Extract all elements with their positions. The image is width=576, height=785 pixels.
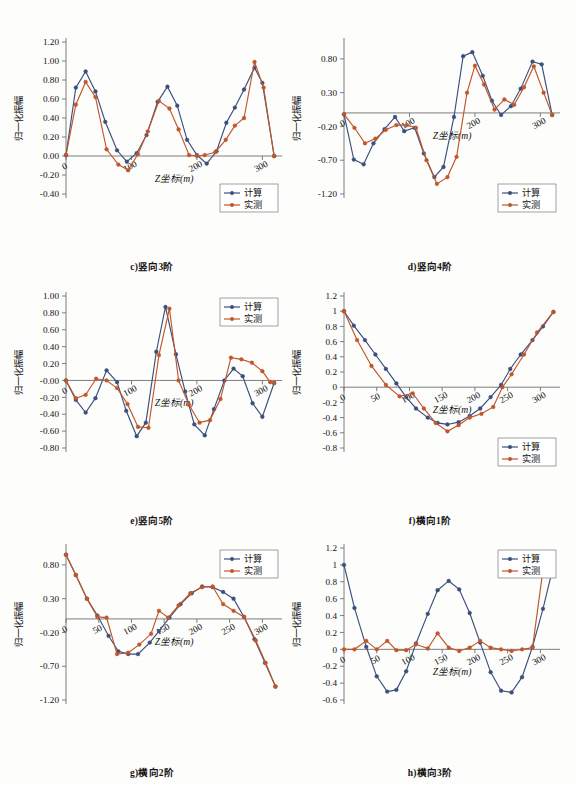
x-tick-label: 150 xyxy=(432,652,449,667)
x-axis-title: Z坐标(m) xyxy=(155,173,194,185)
legend-label: 实测 xyxy=(522,565,540,576)
data-point xyxy=(363,141,367,145)
data-point xyxy=(353,606,357,610)
y-tick-label: -0.4 xyxy=(322,678,337,688)
data-point xyxy=(192,422,196,426)
y-tick-label: 0.20 xyxy=(43,359,59,369)
data-point xyxy=(74,396,78,400)
legend-label: 计算 xyxy=(244,553,262,564)
data-point xyxy=(550,113,554,117)
data-point xyxy=(175,104,179,108)
x-axis-title: Z坐标(m) xyxy=(155,636,194,648)
data-point xyxy=(436,588,440,592)
x-tick-label: 300 xyxy=(253,383,270,398)
data-point xyxy=(446,429,450,433)
legend-label: 计算 xyxy=(522,187,540,198)
data-point xyxy=(414,126,418,130)
legend-swatch-marker xyxy=(508,457,512,461)
x-tick-label: 200 xyxy=(187,383,204,398)
chart-svg-h: -0.6-0.4-0.200.20.40.60.811.205010015020… xyxy=(286,530,574,752)
data-point xyxy=(411,391,415,395)
data-point xyxy=(470,50,474,54)
plot-area-d: -1.20-0.70-0.200.300.800100200300Z坐标(m)归… xyxy=(286,24,574,246)
x-tick-label: 300 xyxy=(531,115,548,130)
data-point xyxy=(342,112,346,116)
legend-swatch-marker xyxy=(230,317,234,321)
y-tick-label: 0.30 xyxy=(43,594,59,604)
data-point xyxy=(434,421,438,425)
data-point xyxy=(115,148,119,152)
data-point xyxy=(436,631,440,635)
x-axis-title: Z坐标(m) xyxy=(433,404,472,416)
data-point xyxy=(126,168,130,172)
y-tick-label: -0.20 xyxy=(318,122,338,132)
data-point xyxy=(404,395,408,399)
y-tick-label: 0.80 xyxy=(43,560,59,570)
series-line-计算 xyxy=(66,68,274,164)
data-point xyxy=(342,563,346,567)
legend-label: 实测 xyxy=(244,565,262,576)
data-point xyxy=(229,356,233,360)
data-point xyxy=(84,411,88,415)
y-tick-label: 0.6 xyxy=(326,337,338,347)
data-point xyxy=(478,639,482,643)
data-point xyxy=(364,645,368,649)
legend-swatch-marker xyxy=(230,569,234,573)
y-tick-label: -1.20 xyxy=(318,189,338,199)
legend-swatch-marker xyxy=(508,557,512,561)
y-tick-label: 0 xyxy=(332,382,337,392)
data-point xyxy=(74,103,78,107)
data-point xyxy=(115,386,119,390)
legend: 计算实测 xyxy=(220,550,278,578)
legend-swatch-marker xyxy=(508,191,512,195)
x-axis-title: Z坐标(m) xyxy=(433,130,472,142)
legend: 计算实测 xyxy=(220,298,278,326)
data-point xyxy=(135,434,139,438)
y-tick-label: 0.4 xyxy=(326,611,338,621)
data-point xyxy=(241,374,245,378)
y-tick-label: 0.80 xyxy=(43,308,59,318)
data-point xyxy=(532,64,536,68)
data-point xyxy=(166,616,170,620)
data-point xyxy=(446,423,450,427)
chart-caption-f: f)横向1阶 xyxy=(286,513,574,527)
data-point xyxy=(499,647,503,651)
data-point xyxy=(541,607,545,611)
data-point xyxy=(154,350,158,354)
data-point xyxy=(465,91,469,95)
data-point xyxy=(457,587,461,591)
data-point xyxy=(435,182,439,186)
data-point xyxy=(510,372,514,376)
data-point xyxy=(352,158,356,162)
legend-label: 实测 xyxy=(522,453,540,464)
data-point xyxy=(535,331,539,335)
legend-swatch-marker xyxy=(508,569,512,573)
plot-area-f: -0.8-0.6-0.4-0.200.20.40.60.811.20501001… xyxy=(286,278,574,500)
data-point xyxy=(126,651,130,655)
plot-area-c: -0.40-0.200.000.200.400.600.801.001.2001… xyxy=(8,24,296,246)
data-point xyxy=(105,616,109,620)
chart-svg-g: -1.20-0.70-0.200.300.8005010015020025030… xyxy=(8,530,296,752)
data-point xyxy=(522,85,526,89)
data-point xyxy=(493,108,497,112)
x-tick-label: 0 xyxy=(338,654,347,665)
data-point xyxy=(219,397,223,401)
y-tick-label: 0.80 xyxy=(43,75,59,85)
data-point xyxy=(233,124,237,128)
series-line-计算 xyxy=(344,52,552,177)
y-tick-label: 1 xyxy=(332,306,337,316)
y-tick-label: 0.8 xyxy=(326,322,338,332)
data-point xyxy=(136,152,140,156)
y-tick-label: 0.80 xyxy=(321,54,337,64)
y-tick-label: 0.30 xyxy=(321,88,337,98)
y-tick-label: 0.40 xyxy=(43,113,59,123)
data-point xyxy=(260,369,264,373)
data-point xyxy=(481,74,485,78)
data-point xyxy=(94,396,98,400)
data-point xyxy=(393,115,397,119)
data-point xyxy=(251,401,255,405)
data-point xyxy=(157,353,161,357)
x-tick-label: 300 xyxy=(253,621,270,636)
figure-sheet: -0.40-0.200.000.200.400.600.801.001.2001… xyxy=(0,0,576,785)
data-point xyxy=(198,421,202,425)
